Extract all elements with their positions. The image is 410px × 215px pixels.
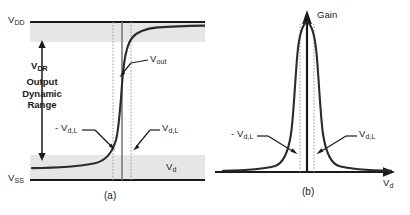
panel-b-x-axis: [215, 167, 395, 177]
pos-threshold-label: Vd,L: [162, 123, 178, 133]
vdd-label: VDD: [8, 15, 25, 25]
panel-b-gain-characteristic: Gain - Vd,L Vd,L Vd (b): [205, 0, 410, 215]
vout-label: Vout: [150, 54, 166, 64]
vss-label: VSS: [8, 173, 24, 183]
dynamic-range-symbol: VDR: [31, 61, 48, 71]
panel-b-x-axis-label: Vd: [383, 178, 393, 188]
gain-label: Gain: [317, 10, 337, 20]
figure-container: VDD VSS VDR Output Dynamic Range Vout - …: [0, 0, 410, 215]
panel-a-caption: (a): [104, 190, 116, 201]
pos-threshold-label-b: Vd,L: [359, 129, 375, 139]
panel-b-plot: [205, 0, 410, 215]
panel-b-caption: (b): [302, 186, 314, 197]
upper-saturation-band: [30, 22, 205, 42]
pos-threshold-callout-arrow-b: [316, 136, 357, 154]
neg-threshold-callout-arrow: [82, 130, 115, 150]
panel-a-transfer-characteristic: VDD VSS VDR Output Dynamic Range Vout - …: [0, 0, 205, 215]
output-dynamic-range-text: Output Dynamic Range: [8, 76, 76, 111]
neg-threshold-label-b: - Vd,L: [231, 129, 253, 139]
neg-threshold-callout-arrow-b: [257, 136, 298, 154]
odr-line-2: Dynamic: [8, 88, 76, 100]
pos-threshold-callout-arrow: [133, 130, 160, 151]
panel-b-y-axis: [302, 10, 312, 172]
odr-line-1: Output: [8, 76, 76, 88]
panel-a-x-axis-label: Vd: [166, 162, 176, 172]
neg-threshold-label: - Vd,L: [55, 123, 77, 133]
odr-line-3: Range: [8, 99, 76, 111]
